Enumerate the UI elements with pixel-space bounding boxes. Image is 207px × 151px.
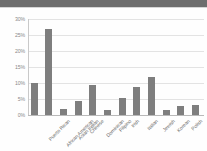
x-axis-tick-label: Korean xyxy=(176,118,191,133)
bar[interactable] xyxy=(177,106,184,115)
bar-slot xyxy=(160,19,175,115)
bar-series xyxy=(28,19,204,115)
x-axis-tick-label: Polish xyxy=(190,118,203,131)
chart-screenshot: 0%5%10%15%20%25%30% Puerto RicanAfrican … xyxy=(0,0,207,151)
x-axis-tick-label: Russian xyxy=(206,118,207,135)
bar[interactable] xyxy=(192,105,199,115)
bar[interactable] xyxy=(133,87,140,115)
y-axis-tick-label: 30% xyxy=(15,16,25,22)
bar[interactable] xyxy=(148,77,155,115)
bar-slot xyxy=(57,19,72,115)
bar-slot xyxy=(28,19,43,115)
bar-slot xyxy=(101,19,116,115)
y-axis-tick-label: 15% xyxy=(15,64,25,70)
y-axis-tick-label: 25% xyxy=(15,32,25,38)
x-axis-tick-label: Puerto Rican xyxy=(47,118,71,142)
window-title-strip xyxy=(0,0,207,7)
bar[interactable] xyxy=(89,85,96,115)
bar[interactable] xyxy=(60,109,67,115)
bar[interactable] xyxy=(163,110,170,115)
bar-slot xyxy=(189,19,204,115)
bar-slot xyxy=(116,19,131,115)
bar[interactable] xyxy=(119,98,126,115)
bar-slot xyxy=(72,19,87,115)
bar-slot xyxy=(87,19,102,115)
x-axis-tick-label: Irish xyxy=(130,118,141,129)
y-axis-tick-label: 0% xyxy=(18,112,25,118)
y-axis-tick-label: 20% xyxy=(15,48,25,54)
bar[interactable] xyxy=(45,29,52,115)
bar-chart: 0%5%10%15%20%25%30% Puerto RicanAfrican … xyxy=(0,8,207,151)
x-axis-line xyxy=(28,115,204,116)
bar[interactable] xyxy=(104,110,111,115)
x-axis-tick-label: Italian xyxy=(146,118,159,131)
y-axis-tick-label: 10% xyxy=(15,80,25,86)
bar[interactable] xyxy=(31,83,38,115)
bar-slot xyxy=(131,19,146,115)
bar[interactable] xyxy=(75,101,82,115)
bar-slot xyxy=(43,19,58,115)
bar-slot xyxy=(145,19,160,115)
x-axis-tick-label: Jewish xyxy=(161,118,176,133)
y-axis-tick-label: 5% xyxy=(18,96,25,102)
bar-slot xyxy=(175,19,190,115)
